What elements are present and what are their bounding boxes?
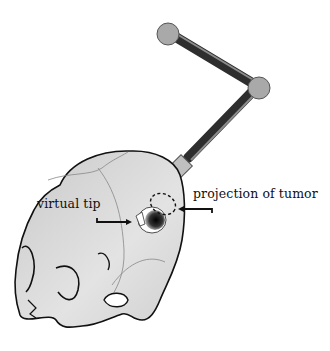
arm-link-upper bbox=[169, 33, 259, 87]
skull-outline bbox=[15, 151, 184, 327]
projection-leader bbox=[182, 209, 212, 213]
joint-elbow bbox=[248, 77, 270, 99]
arm-link-lower bbox=[188, 91, 253, 158]
diagram-svg bbox=[0, 0, 330, 351]
diagram-canvas: virtual tip projection of tumor bbox=[0, 0, 330, 351]
skull bbox=[15, 151, 184, 327]
joint-top bbox=[157, 23, 179, 45]
arm-link-upper-highlight bbox=[170, 30, 260, 84]
arm-link-lower-highlight bbox=[191, 93, 256, 160]
virtual-tip-label: virtual tip bbox=[37, 196, 101, 211]
projection-of-tumor-label: projection of tumor bbox=[193, 186, 318, 201]
virtual-tip-cavity bbox=[145, 210, 165, 230]
ear-opening bbox=[104, 293, 128, 307]
